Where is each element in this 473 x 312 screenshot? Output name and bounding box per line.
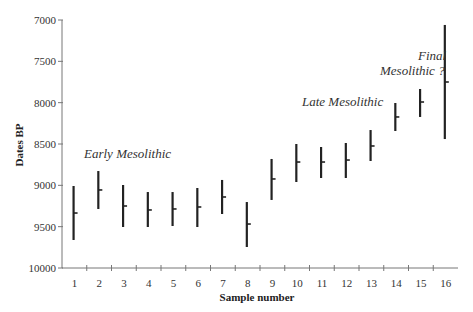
x-tick-label: 1 [72, 277, 78, 289]
x-tick-label: 5 [171, 277, 177, 289]
x-axis-title: Sample number [220, 291, 295, 303]
x-tick-label: 6 [196, 277, 202, 289]
x-tick-label: 3 [121, 277, 127, 289]
x-tick-label: 8 [245, 277, 251, 289]
x-tick-label: 16 [440, 277, 452, 289]
y-tick-label: 9500 [34, 221, 57, 233]
x-tick-label: 9 [270, 277, 276, 289]
y-tick-label: 7500 [34, 55, 57, 67]
y-tick-label: 10000 [29, 262, 57, 274]
range-chart: 7000750080008500900095001000012345678910… [0, 0, 473, 312]
period-annotation: Late Mesolithic [301, 94, 383, 109]
y-tick-label: 9000 [34, 179, 57, 191]
period-annotation: Early Mesolithic [83, 146, 171, 161]
x-tick-label: 7 [220, 277, 226, 289]
x-tick-label: 2 [97, 277, 103, 289]
x-tick-label: 4 [146, 277, 152, 289]
x-tick-label: 15 [416, 277, 428, 289]
period-annotation: Mesolithic ? [379, 63, 445, 78]
y-tick-label: 8000 [34, 97, 57, 109]
y-tick-label: 8500 [34, 138, 57, 150]
x-tick-label: 12 [341, 277, 352, 289]
y-tick-label: 7000 [34, 14, 57, 26]
x-tick-label: 11 [317, 277, 328, 289]
x-tick-label: 14 [391, 277, 403, 289]
x-tick-label: 10 [292, 277, 304, 289]
x-tick-label: 13 [366, 277, 378, 289]
y-axis-title: Dates BP [13, 123, 25, 166]
period-annotation: Final [417, 48, 447, 63]
